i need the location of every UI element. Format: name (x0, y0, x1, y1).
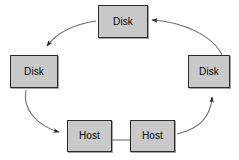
node-label-host-right: Host (142, 131, 163, 141)
node-label-disk-top: Disk (113, 17, 133, 27)
node-disk-left[interactable]: Disk (10, 55, 58, 88)
edge-right-to-top (152, 20, 223, 57)
node-label-disk-left: Disk (24, 67, 44, 77)
node-host-left[interactable]: Host (67, 120, 112, 152)
node-disk-right[interactable]: Disk (188, 55, 230, 88)
node-host-right[interactable]: Host (130, 120, 175, 152)
edge-left-to-host-left (25, 90, 59, 132)
node-label-host-left: Host (79, 131, 100, 141)
diagram-canvas: Disk Disk Disk Host Host (0, 0, 239, 160)
node-disk-top[interactable]: Disk (98, 5, 148, 38)
edge-host-right-to-right (177, 97, 212, 134)
edge-top-to-left (47, 21, 96, 46)
node-label-disk-right: Disk (199, 67, 219, 77)
